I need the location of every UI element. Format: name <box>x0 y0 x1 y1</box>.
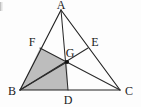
triangle-diagram-svg: A B C D E F G <box>0 0 141 107</box>
shaded-quadrilateral-bdgf <box>20 48 68 90</box>
vertex-label-e: E <box>91 35 98 49</box>
centroid-point-g <box>65 60 69 64</box>
vertex-label-c: C <box>125 84 133 98</box>
vertex-label-a: A <box>57 0 66 12</box>
vertex-label-f: F <box>29 35 36 49</box>
vertex-label-b: B <box>8 84 16 98</box>
vertex-label-d: D <box>64 93 73 107</box>
geometry-figure-canvas: A B C D E F G <box>0 0 141 107</box>
vertex-label-g: G <box>66 46 75 60</box>
